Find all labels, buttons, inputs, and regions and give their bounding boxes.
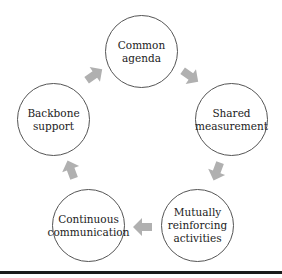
node-continuous-communication: Continuous communication [52, 189, 125, 262]
arrow-agenda-to-measurement-icon [177, 63, 203, 89]
node-label-line: activities [168, 232, 227, 245]
bottom-rule [0, 271, 282, 274]
node-label-line: communication [48, 226, 130, 239]
node-label-line: measurement [195, 120, 268, 133]
node-label-line: Mutually [168, 206, 227, 219]
node-label-line: reinforcing [168, 219, 227, 232]
arrow-activities-to-communication-icon [133, 218, 152, 236]
node-label-line: Continuous [48, 213, 130, 226]
arrow-communication-to-backbone-icon [59, 158, 82, 182]
node-label-line: agenda [118, 52, 165, 65]
arrow-measurement-to-activities-icon [205, 159, 228, 183]
node-label-line: support [27, 120, 79, 133]
arrow-backbone-to-agenda-icon [81, 62, 107, 88]
node-label-line: Common [118, 39, 165, 52]
node-common-agenda: Common agenda [105, 15, 178, 88]
node-label-line: Shared [195, 107, 268, 120]
node-backbone-support: Backbone support [17, 83, 90, 156]
node-mutually-reinforcing-activities: Mutually reinforcing activities [161, 189, 234, 262]
node-label-line: Backbone [27, 107, 79, 120]
node-shared-measurement: Shared measurement [195, 83, 268, 156]
